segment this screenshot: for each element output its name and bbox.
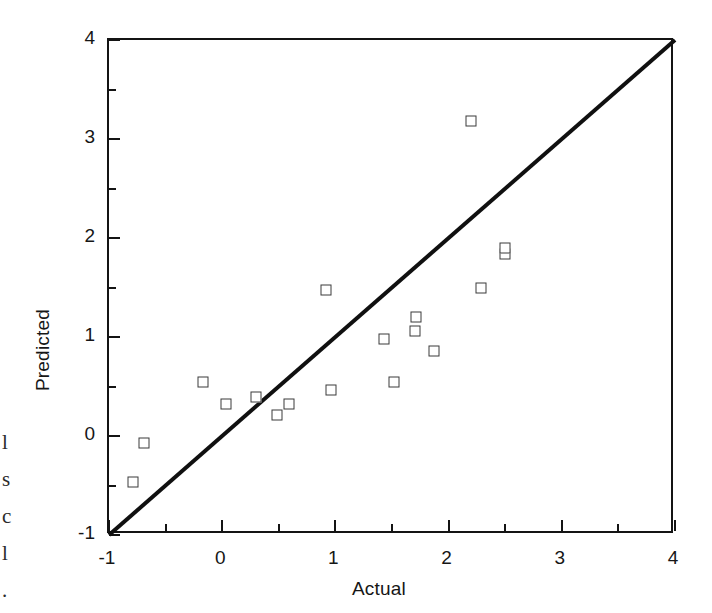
data-point-marker xyxy=(476,283,487,294)
data-point-marker xyxy=(251,392,262,403)
x-axis-major-tick xyxy=(674,520,676,531)
y-axis-tick-label: -1 xyxy=(61,522,95,544)
data-point-marker xyxy=(409,326,420,337)
y-axis-minor-tick xyxy=(109,485,116,487)
x-axis-title-text: Actual xyxy=(352,578,406,600)
x-axis-major-tick xyxy=(334,520,336,531)
y-axis-minor-tick xyxy=(109,386,116,388)
y-axis-major-tick xyxy=(109,534,120,536)
x-axis-major-tick xyxy=(448,520,450,531)
plot-area xyxy=(107,38,673,533)
data-point-marker xyxy=(283,399,294,410)
x-axis-title: Actual xyxy=(0,578,712,600)
data-point-marker xyxy=(428,345,439,356)
x-axis-minor-tick xyxy=(391,524,393,531)
data-point-marker xyxy=(379,333,390,344)
reference-line-y-equals-x xyxy=(109,40,675,535)
y-axis-tick-label: 1 xyxy=(61,324,95,346)
data-point-marker xyxy=(271,410,282,421)
data-point-marker xyxy=(500,242,511,253)
x-axis-minor-tick xyxy=(504,524,506,531)
data-point-marker xyxy=(410,312,421,323)
page-margin-text-fragment: l s c l . xyxy=(2,424,28,604)
y-axis-minor-tick xyxy=(109,287,116,289)
x-axis-major-tick xyxy=(221,520,223,531)
x-axis-tick-label: 1 xyxy=(328,547,339,569)
data-point-marker xyxy=(139,437,150,448)
data-point-marker xyxy=(325,385,336,396)
x-axis-major-tick xyxy=(561,520,563,531)
x-axis-tick-label: 4 xyxy=(668,547,679,569)
y-axis-title: Predicted xyxy=(32,103,58,598)
y-axis-major-tick xyxy=(109,336,120,338)
y-axis-minor-tick xyxy=(109,89,116,91)
x-axis-minor-tick xyxy=(617,524,619,531)
y-axis-minor-tick xyxy=(109,188,116,190)
y-axis-tick-label: 3 xyxy=(61,126,95,148)
y-axis-major-tick xyxy=(109,237,120,239)
x-axis-tick-label: 0 xyxy=(215,547,226,569)
x-axis-minor-tick xyxy=(278,524,280,531)
x-axis-tick-label: 3 xyxy=(555,547,566,569)
data-point-marker xyxy=(466,116,477,127)
x-axis-major-tick xyxy=(108,520,110,531)
scatter-plot-figure: l s c l . -101234-101234 Actual Predicte… xyxy=(0,0,712,613)
y-axis-major-tick xyxy=(109,138,120,140)
x-axis-tick-label: 2 xyxy=(441,547,452,569)
data-point-marker xyxy=(127,476,138,487)
y-axis-major-tick xyxy=(109,39,120,41)
x-axis-tick-label: -1 xyxy=(99,547,116,569)
y-axis-major-tick xyxy=(109,435,120,437)
y-axis-tick-label: 2 xyxy=(61,225,95,247)
x-axis-minor-tick xyxy=(165,524,167,531)
data-point-marker xyxy=(220,399,231,410)
data-point-marker xyxy=(321,285,332,296)
data-point-marker xyxy=(389,376,400,387)
data-point-marker xyxy=(197,376,208,387)
y-axis-tick-label: 4 xyxy=(61,27,95,49)
y-axis-tick-label: 0 xyxy=(61,423,95,445)
